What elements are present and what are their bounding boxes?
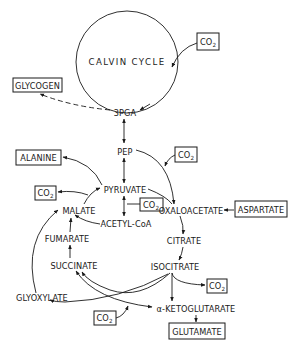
co2-box-malic: CO2 (35, 186, 56, 200)
svg-text:ALANINE: ALANINE (20, 153, 57, 163)
node-succinate: SUCCINATE (50, 261, 97, 271)
glycogen-box: GLYCOGEN (13, 78, 62, 92)
node-oxaloacetate: OXALOACETATE (159, 206, 224, 216)
node-citrate: CITRATE (167, 236, 201, 246)
aspartate-box: ASPARTATE (235, 201, 287, 217)
acetylcoa-to-malate-arrow (75, 215, 100, 224)
isocitrate-co2-arrow (172, 273, 205, 285)
pep-to-oxaloacetate-arrow (136, 150, 174, 204)
oxaloacetate-to-citrate-arrow (180, 216, 183, 234)
ketoglutarate-succinate-arrow (76, 271, 152, 307)
metabolic-pathway-diagram: CALVIN CYCLE CO2 GLYCOGEN 3PGA PEP CO2 P… (0, 0, 303, 358)
node-glyoxylate: GLYOXYLATE (16, 293, 68, 303)
calvin-to-3pga-arrow (140, 104, 150, 110)
node-ketoglutarate: α-KETOGLUTARATE (157, 304, 236, 314)
kgdh-co2-arrow (116, 306, 128, 318)
svg-text:GLYCOGEN: GLYCOGEN (15, 81, 60, 91)
node-3pga: 3PGA (114, 108, 137, 118)
node-fumarate: FUMARATE (45, 234, 90, 244)
malate-to-pyruvate-arrow (84, 188, 100, 204)
alanine-box: ALANINE (16, 150, 61, 165)
node-pyruvate: PYRUVATE (104, 185, 146, 195)
3pga-to-glycogen-arrow (40, 94, 110, 110)
co2-box-idh: CO2 (207, 279, 227, 293)
co2-box-calvin: CO2 (197, 33, 219, 50)
svg-text:GLUTAMATE: GLUTAMATE (172, 327, 222, 337)
node-malate: MALATE (62, 206, 95, 216)
node-pep: PEP (117, 147, 132, 157)
co2-box-pep: CO2 (175, 147, 197, 162)
co2-box-kgdh: CO2 (94, 311, 116, 325)
co2-to-pep-carboxylation-arrow (165, 155, 175, 166)
svg-text:ASPARTATE: ASPARTATE (238, 205, 284, 215)
calvin-cycle-label: CALVIN CYCLE (89, 57, 166, 67)
malate-decarboxylation-co2-arrow (58, 191, 88, 195)
pyruvate-to-alanine-arrow (63, 157, 102, 185)
fumarate-to-malate-arrow (70, 218, 71, 232)
node-acetyl-coa: ACETYL-CoA (100, 219, 151, 229)
node-isocitrate: ISOCITRATE (151, 262, 200, 272)
glutamate-box: GLUTAMATE (169, 323, 225, 339)
citrate-to-isocitrate-arrow (179, 247, 183, 260)
glyoxylate-to-malate-arrow (32, 210, 58, 293)
